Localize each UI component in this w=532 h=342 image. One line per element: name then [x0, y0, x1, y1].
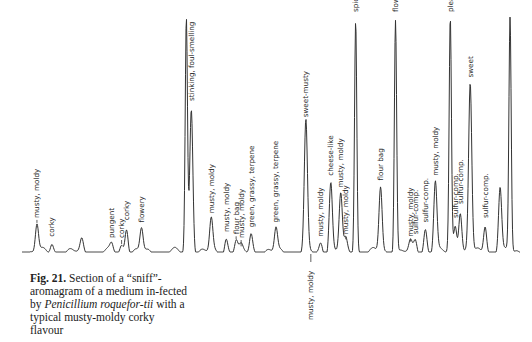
peak-label: pungent — [107, 208, 116, 238]
peak-label: musty, moldy — [341, 184, 350, 234]
peak-label: musty, moldy — [207, 163, 216, 213]
figure-caption: Fig. 21. Section of a “sniff”-aromagram … — [30, 272, 190, 337]
peak-label: musty, moldy — [431, 126, 440, 176]
peak-label: musty, moldy — [306, 270, 315, 320]
figure-number: Fig. 21. — [30, 272, 66, 284]
peak-label: spicy — [351, 0, 360, 12]
peak-label: sulfur-comp. — [456, 159, 465, 204]
peak-label: corky — [47, 216, 56, 236]
peak-label: flowery — [391, 0, 400, 12]
peak-label: pleasant-spicy — [446, 0, 455, 12]
peak-label: cheese-like — [326, 135, 335, 176]
peak-label: sulfur-comp. — [411, 190, 420, 235]
peak-label: stinking, foul-smelling — [187, 22, 196, 101]
peak-label: flour bag — [376, 148, 385, 180]
peak-label: sulfur-comp. — [481, 173, 490, 218]
peak-label: sweet — [466, 56, 475, 77]
peak-label: musty, moldy — [316, 187, 325, 237]
peak-label: musty, moldy — [237, 188, 246, 238]
peak-label: musty, moldy — [222, 182, 231, 232]
peak-label: corky — [122, 200, 131, 220]
peak-label: musty, moldy — [32, 168, 41, 218]
peak-label: green, grassy, terpene — [271, 140, 280, 222]
peak-label: sulfur-comp. — [421, 178, 430, 223]
peak-label: flowery — [137, 195, 146, 222]
peak-label: musty, moldy — [336, 138, 345, 188]
peak-label: sweet-musty — [301, 70, 310, 117]
peak-label: green, grassy, terpene — [247, 145, 256, 227]
caption-species: Penicillium roquefor-tii — [44, 298, 153, 310]
